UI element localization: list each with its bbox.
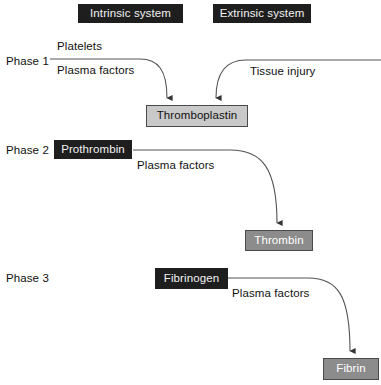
node-prothrombin-label: Prothrombin [61,144,125,156]
edge-label-plasma-factors-phase3: Plasma factors [232,288,309,300]
phase-3-label: Phase 3 [6,273,49,285]
phase-1-label: Phase 1 [6,56,49,68]
edge-label-plasma-factors-phase2: Plasma factors [137,160,214,172]
edge-label-plasma-factors-phase1: Plasma factors [57,65,134,77]
coagulation-cascade-diagram: Intrinsic system Extrinsic system Phase … [0,0,381,385]
node-thromboplastin-label: Thromboplastin [157,110,238,122]
node-fibrinogen: Fibrinogen [155,268,228,289]
node-thrombin-label: Thrombin [254,235,303,247]
header-extrinsic-system: Extrinsic system [213,4,311,23]
node-thromboplastin: Thromboplastin [146,105,248,127]
node-prothrombin: Prothrombin [54,140,132,159]
edge-label-platelets: Platelets [57,41,102,53]
edge-label-tissue-injury: Tissue injury [250,66,315,78]
node-thrombin: Thrombin [245,230,313,251]
phase-2-label: Phase 2 [6,145,49,157]
node-fibrin: Fibrin [323,358,379,380]
header-extrinsic-system-label: Extrinsic system [220,8,305,20]
header-intrinsic-system: Intrinsic system [78,4,183,23]
connector-layer [0,0,381,385]
node-fibrinogen-label: Fibrinogen [164,273,219,285]
header-intrinsic-system-label: Intrinsic system [90,8,171,20]
node-fibrin-label: Fibrin [336,363,365,375]
